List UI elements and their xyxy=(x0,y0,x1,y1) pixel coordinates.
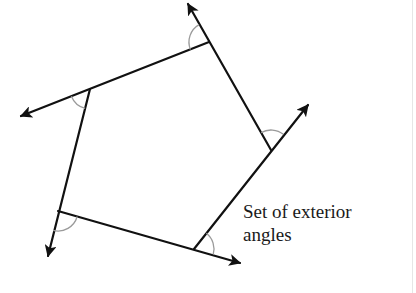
side-bottomleft-bottom-extended xyxy=(58,211,240,263)
label-line-2: angles xyxy=(243,224,292,245)
exterior-angle-arc-bottom xyxy=(206,233,214,254)
side-right-top-extended xyxy=(188,4,271,150)
label-line-1: Set of exterior xyxy=(243,201,352,222)
side-top-left-extended xyxy=(21,42,209,116)
exterior-angles-diagram: Set of exterior angles xyxy=(0,0,416,293)
exterior-angle-arc-right xyxy=(261,130,283,134)
exterior-angle-arc-left xyxy=(71,96,85,108)
